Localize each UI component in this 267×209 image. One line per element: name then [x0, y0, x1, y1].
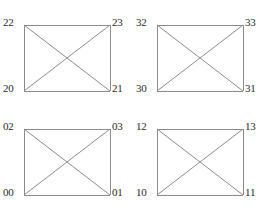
vertex-label-top-right: 03 [112, 121, 123, 132]
vertex-label-bottom-right: 21 [112, 83, 123, 94]
vertex-label-bottom-left: 10 [136, 187, 147, 198]
vertex-label-top-right: 13 [245, 121, 256, 132]
vertex-label-bottom-right: 11 [245, 187, 255, 198]
vertex-label-bottom-left: 00 [3, 187, 14, 198]
graph-top-right: 32 33 30 31 [133, 0, 266, 104]
graph-top-left: 22 23 20 21 [0, 0, 133, 104]
vertex-label-top-left: 22 [3, 17, 14, 28]
graph-bottom-left: 02 03 00 01 [0, 104, 133, 208]
vertex-label-bottom-left: 20 [3, 83, 14, 94]
vertex-label-bottom-left: 30 [136, 83, 147, 94]
vertex-label-top-right: 33 [245, 17, 256, 28]
graph-bottom-right: 12 13 10 11 [133, 104, 266, 208]
graph-grid: 22 23 20 21 32 33 30 31 [0, 0, 267, 209]
vertex-label-bottom-right: 31 [245, 83, 256, 94]
vertex-label-bottom-right: 01 [112, 187, 123, 198]
vertex-label-top-left: 12 [136, 121, 147, 132]
vertex-label-top-left: 02 [3, 121, 14, 132]
vertex-label-top-left: 32 [136, 17, 147, 28]
vertex-label-top-right: 23 [112, 17, 123, 28]
figure-canvas: 22 23 20 21 32 33 30 31 [0, 0, 267, 209]
